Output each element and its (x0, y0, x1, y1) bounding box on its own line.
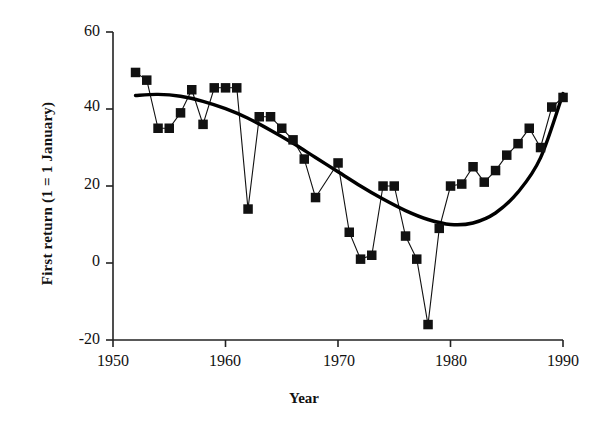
data-point-marker (390, 181, 400, 191)
data-point-marker (300, 154, 310, 164)
axis-lines (113, 32, 563, 340)
data-point-marker (153, 124, 163, 134)
data-point-marker (165, 124, 175, 134)
data-point-marker (243, 204, 253, 214)
data-point-marker (536, 143, 546, 153)
data-point-marker (210, 83, 220, 93)
data-point-marker (311, 193, 321, 203)
data-point-marker (435, 224, 445, 234)
data-point-marker (266, 112, 276, 122)
data-point-marker (491, 166, 501, 176)
data-point-marker (198, 120, 208, 130)
y-axis-ticks (106, 32, 113, 340)
data-point-marker (513, 139, 523, 149)
data-point-marker (378, 181, 388, 191)
data-point-marker (446, 181, 456, 191)
data-point-marker (131, 68, 141, 78)
data-point-marker (480, 177, 490, 187)
data-point-marker (288, 135, 298, 145)
data-point-marker (142, 75, 152, 85)
data-connecting-line (136, 72, 564, 324)
chart-figure: First return (1 = 1 January) 60 40 20 0 … (0, 0, 608, 430)
plot-area (0, 0, 608, 430)
data-point-marker (232, 83, 242, 93)
data-point-marker (277, 124, 287, 134)
data-point-marker (255, 112, 265, 122)
data-point-markers (131, 68, 568, 330)
data-point-marker (502, 150, 512, 160)
data-point-marker (401, 231, 411, 241)
data-point-marker (221, 83, 231, 93)
data-point-marker (547, 102, 557, 112)
data-point-marker (558, 93, 568, 103)
data-point-marker (423, 320, 433, 330)
data-point-marker (525, 124, 535, 134)
data-point-marker (468, 162, 478, 172)
data-point-marker (367, 251, 377, 261)
data-point-marker (412, 254, 422, 264)
data-point-marker (345, 228, 355, 238)
data-point-marker (457, 179, 467, 189)
data-point-marker (333, 158, 343, 168)
data-point-marker (356, 254, 366, 264)
x-axis-ticks (113, 340, 563, 347)
data-point-marker (176, 108, 186, 118)
data-point-marker (187, 85, 197, 95)
